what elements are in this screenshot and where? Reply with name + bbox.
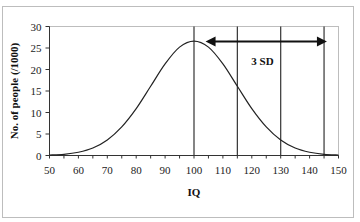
x-axis-title: IQ — [188, 186, 201, 198]
y-tick-label: 20 — [31, 64, 43, 76]
y-tick-label: 0 — [36, 150, 42, 162]
x-tick-label: 80 — [131, 164, 143, 176]
x-tick-label: 130 — [272, 164, 289, 176]
chart-outer-frame — [3, 7, 354, 218]
x-tick-label: 100 — [186, 164, 203, 176]
x-tick-label: 50 — [44, 164, 56, 176]
iq-distribution-chart: 051015202530 506070809010011012013014015… — [0, 0, 360, 222]
y-tick-label: 5 — [36, 128, 42, 140]
y-tick-label: 25 — [31, 42, 43, 54]
x-tick-label: 90 — [160, 164, 172, 176]
x-tick-label: 110 — [215, 164, 232, 176]
x-tick-label: 60 — [73, 164, 85, 176]
x-tick-label: 120 — [244, 164, 261, 176]
y-tick-label: 10 — [31, 107, 43, 119]
x-tick-label: 140 — [301, 164, 318, 176]
y-tick-label: 30 — [31, 21, 43, 33]
y-tick-label: 15 — [31, 85, 43, 97]
three-sd-label: 3 SD — [251, 55, 273, 67]
x-tick-label: 70 — [102, 164, 114, 176]
x-tick-label: 150 — [330, 164, 347, 176]
y-axis-title: No. of people (/1000) — [8, 42, 21, 139]
